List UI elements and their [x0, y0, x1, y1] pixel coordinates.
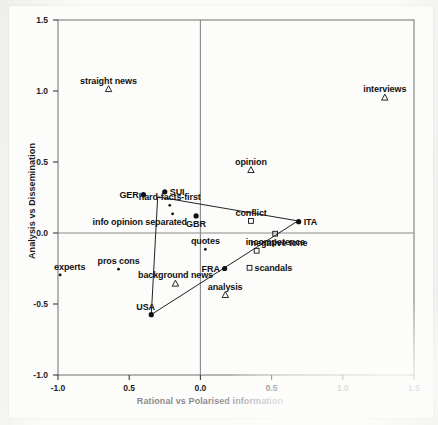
point-label-analysis: analysis: [208, 282, 243, 292]
marker-gbr[interactable]: [194, 213, 199, 218]
y-axis-title: Analysis vs Dissemination: [27, 121, 37, 281]
point-label-experts: experts: [54, 262, 85, 272]
point-label-usa: USA: [136, 302, 155, 312]
marker-background-news[interactable]: [172, 280, 178, 286]
marker-scandals[interactable]: [247, 265, 252, 270]
marker-interviews[interactable]: [382, 94, 388, 100]
marker-fra[interactable]: [222, 266, 227, 271]
y-tick-label: 1.5: [22, 15, 48, 25]
marker-hard-facts-first[interactable]: [168, 204, 171, 207]
marker-quotes[interactable]: [204, 248, 207, 251]
point-label-ita: ITA: [304, 217, 318, 227]
y-tick-label: 1.0: [22, 86, 48, 96]
point-label-scandals: scandals: [255, 263, 293, 273]
point-label-pros-cons: pros cons: [98, 256, 140, 266]
scatter-plot-figure: Analysis vs Dissemination Rational vs Po…: [0, 0, 438, 425]
marker-info-opinion-separated[interactable]: [171, 212, 174, 215]
point-label-negative-tone: negative tone: [251, 238, 308, 248]
x-tick-label: 0.0: [186, 383, 214, 393]
point-label-opinion: opinion: [235, 157, 267, 167]
marker-conflict[interactable]: [249, 219, 254, 224]
point-label-ger: GER: [119, 190, 138, 200]
x-tick-label: 1.0: [329, 383, 357, 393]
x-tick-label: -1.0: [44, 383, 72, 393]
y-tick-label: 0.5: [22, 157, 48, 167]
y-tick-label: -1.0: [22, 370, 48, 380]
point-label-background-news: background news: [138, 270, 213, 280]
point-label-hard-facts-first: hard-facts-first: [139, 192, 201, 202]
x-tick-label: 0.5: [258, 383, 286, 393]
scan-sheet: Analysis vs Dissemination Rational vs Po…: [0, 0, 438, 425]
marker-straight-news[interactable]: [105, 86, 111, 92]
marker-experts[interactable]: [59, 273, 62, 276]
marker-pros-cons[interactable]: [117, 268, 120, 271]
point-label-conflict: conflict: [236, 208, 267, 218]
y-tick-label: 0.0: [22, 228, 48, 238]
point-label-info-opinion-separated: info opinion separated: [93, 217, 187, 227]
point-label-straight-news: straight news: [80, 76, 137, 86]
point-label-quotes: quotes: [191, 236, 220, 246]
y-tick-label: -0.5: [22, 299, 48, 309]
marker-negative-tone[interactable]: [254, 248, 259, 253]
marker-ita[interactable]: [296, 219, 301, 224]
x-tick-label: 0.5: [115, 383, 143, 393]
plot-canvas: [0, 0, 438, 425]
marker-opinion[interactable]: [248, 167, 254, 173]
point-label-interviews: interviews: [363, 84, 406, 94]
plot-frame: [58, 20, 414, 375]
marker-usa[interactable]: [149, 312, 154, 317]
marker-analysis[interactable]: [222, 292, 228, 298]
point-label-gbr: GBR: [186, 219, 206, 229]
x-tick-label: 1.5: [400, 383, 428, 393]
x-axis-title: Rational vs Polarised information: [120, 396, 300, 406]
